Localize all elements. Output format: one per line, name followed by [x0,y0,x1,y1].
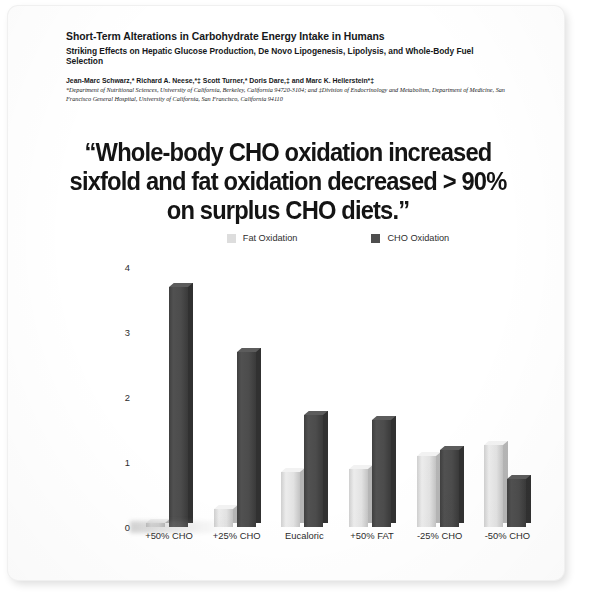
chart-legend: Fat Oxidation CHO Oxidation [128,233,548,243]
legend-item-fat-oxidation: Fat Oxidation [227,233,298,243]
x-axis-label: -50% CHO [485,530,530,541]
article-subtitle: Striking Effects on Hepatic Glucose Prod… [66,46,506,67]
bar-side [256,348,261,524]
bar-face [349,469,368,527]
y-axis-tick: 4 [110,262,130,273]
y-axis-tick: 0 [110,522,130,533]
bar-chart: 01234 +50% CHO+25% CHOEucaloric+50% FAT-… [108,256,538,546]
legend-swatch-fat-icon [227,234,236,243]
bar-face [484,445,503,527]
legend-label-fat: Fat Oxidation [243,233,298,243]
bar-face [440,450,459,527]
bar-cho-oxidation [372,420,391,527]
y-axis-tick: 2 [110,392,130,403]
article-title: Short-Term Alterations in Carbohydrate E… [66,30,518,43]
bar-group [132,256,200,527]
x-axis-label: +50% FAT [350,530,393,541]
pull-quote: “Whole-body CHO oxidation increased sixf… [56,138,521,225]
bar-face [417,456,436,527]
bar-face [281,472,300,527]
author-line: Jean-Marc Schwarz,* Richard A. Neese,*‡ … [66,76,518,85]
bar-cho-oxidation [507,479,526,527]
bar-fat-oxidation [349,469,368,527]
bar-face [169,287,188,527]
bar-fat-oxidation [417,456,436,527]
plot-area: +50% CHO+25% CHOEucaloric+50% FAT-25% CH… [132,256,538,527]
bar-side [323,411,328,523]
bar-fat-oxidation [281,472,300,527]
bar-group [200,256,268,527]
scan-smudge [130,521,250,533]
slide-page: Short-Term Alterations in Carbohydrate E… [8,6,564,580]
y-axis-tick: 3 [110,327,130,338]
bar-group [470,256,538,527]
journal-header: Short-Term Alterations in Carbohydrate E… [66,30,518,104]
y-axis-tick: 1 [110,457,130,468]
bar-fat-oxidation [484,445,503,527]
bar-face [507,479,526,527]
bar-group [403,256,471,527]
legend-swatch-cho-icon [371,234,380,243]
author-affiliations: *Department of Nutritional Sciences, Uni… [66,86,516,103]
bar-face [372,420,391,527]
bar-cap [237,348,261,352]
bar-face [304,415,323,527]
bar-face [237,352,256,528]
bar-group [267,256,335,527]
x-axis-label: Eucaloric [285,530,324,541]
bar-group [335,256,403,527]
bar-side [188,283,193,523]
y-axis: 01234 [108,256,134,531]
bar-cho-oxidation [169,287,188,527]
bar-side [391,416,396,523]
legend-item-cho-oxidation: CHO Oxidation [371,233,449,243]
bar-cho-oxidation [440,450,459,527]
legend-label-cho: CHO Oxidation [387,233,449,243]
bar-side [459,446,464,523]
bar-cho-oxidation [237,352,256,528]
bar-cho-oxidation [304,415,323,527]
bar-side [526,475,531,523]
x-axis-label: -25% CHO [417,530,462,541]
